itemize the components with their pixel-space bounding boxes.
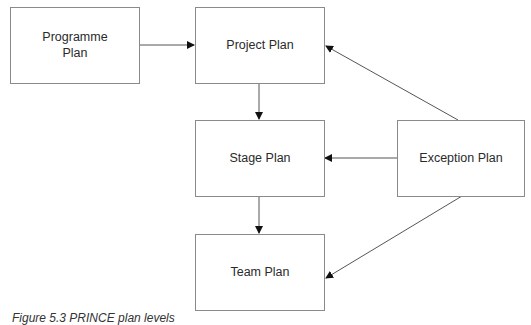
node-label-line2: Plan — [42, 46, 107, 62]
node-label: Exception Plan — [419, 151, 502, 167]
node-label: Stage Plan — [229, 151, 290, 167]
node-programme-plan: Programme Plan — [10, 7, 140, 84]
node-label-line1: Programme — [42, 30, 107, 46]
node-project-plan: Project Plan — [195, 7, 325, 84]
node-stage-plan: Stage Plan — [195, 120, 325, 197]
edge-exception-project — [326, 46, 458, 120]
node-label: Project Plan — [226, 38, 293, 54]
figure-caption: Figure 5.3 PRINCE plan levels — [12, 311, 175, 325]
node-label: Team Plan — [230, 265, 289, 281]
node-exception-plan: Exception Plan — [397, 120, 525, 197]
node-team-plan: Team Plan — [195, 234, 325, 311]
edge-exception-team — [326, 196, 462, 278]
